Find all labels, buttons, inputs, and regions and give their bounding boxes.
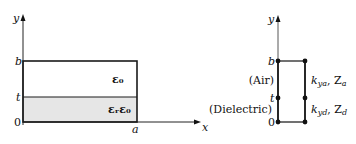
tick-a: a (132, 123, 139, 136)
right-figure: y b t 0 (Air) (Dielectric) kya, Za kyd, … (209, 13, 347, 129)
node (303, 120, 308, 125)
epsilon-r-label: εᵣε₀ (108, 103, 131, 116)
epsilon0-label: ε₀ (112, 73, 124, 86)
left-x-label: x (202, 121, 209, 134)
node (276, 59, 281, 64)
node (303, 59, 308, 64)
tick-0: 0 (14, 116, 21, 129)
right-y-axis-arrow-icon (276, 15, 281, 22)
tick-t: t (16, 91, 21, 104)
left-figure: y x b t 0 a ε₀ εᵣε₀ (12, 12, 209, 136)
right-tick-b: b (268, 55, 275, 68)
waveguide-diagram: y x b t 0 a ε₀ εᵣε₀ y b t 0 (Air) (Diele… (0, 0, 356, 144)
left-y-label: y (12, 12, 20, 25)
y-axis-arrow-icon (21, 14, 26, 21)
node (276, 96, 281, 101)
dielectric-label: (Dielectric) (209, 103, 272, 116)
air-label: (Air) (249, 74, 274, 87)
right-y-label: y (267, 13, 275, 26)
air-params: kya, Za (311, 74, 347, 88)
dielectric-params: kyd, Zd (311, 103, 347, 117)
node (303, 96, 308, 101)
x-axis-arrow-icon (194, 120, 201, 125)
node (276, 120, 281, 125)
right-tick-0: 0 (268, 116, 275, 129)
tick-b: b (15, 55, 22, 68)
